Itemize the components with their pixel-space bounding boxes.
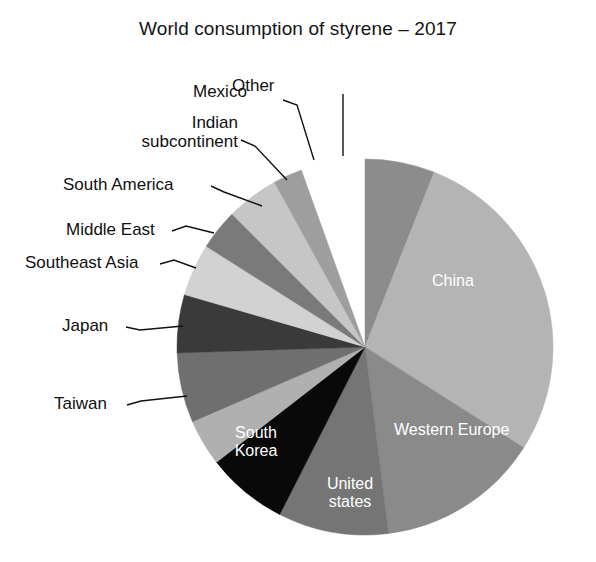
united-states-line2: states <box>329 493 372 510</box>
slice-callout-south-america: South America <box>63 175 174 194</box>
indian-subcontinent-line1: Indian <box>192 113 238 132</box>
south-korea-line1: South <box>235 424 277 441</box>
slice-callout-japan: Japan <box>62 316 108 335</box>
south-korea-line2: Korea <box>235 442 278 459</box>
leader-line-southeast-asia <box>160 260 196 268</box>
pie-chart-svg <box>0 0 596 562</box>
leader-line-indian-subcontinent <box>241 140 287 180</box>
pie-chart-figure: World consumption of styrene – 2017 Othe… <box>0 0 596 562</box>
leader-line-mexico <box>283 100 314 160</box>
leader-line-middle-east <box>172 226 214 233</box>
slice-label-south-korea: South Korea <box>216 424 296 461</box>
united-states-line1: United <box>327 475 373 492</box>
slice-callout-middle-east: Middle East <box>66 220 155 239</box>
slice-label-united-states: United states <box>310 475 390 512</box>
leader-line-japan <box>126 326 183 330</box>
indian-subcontinent-line2: subcontinent <box>142 132 238 151</box>
leader-line-taiwan <box>127 396 187 405</box>
slice-callout-taiwan: Taiwan <box>54 394 107 413</box>
slice-label-western-europe: Western Europe <box>394 421 509 439</box>
slice-callout-indian-subcontinent: Indian subcontinent <box>88 113 238 151</box>
slice-label-china: China <box>432 272 474 290</box>
slice-callout-southeast-asia: Southeast Asia <box>25 253 138 272</box>
slice-callout-mexico: Mexico <box>193 82 247 101</box>
